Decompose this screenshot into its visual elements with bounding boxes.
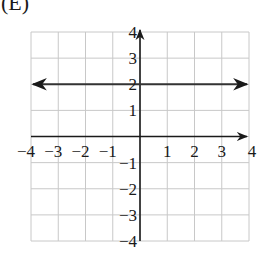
x-tick-label: −1	[99, 142, 117, 161]
panel-label: (E)	[1, 0, 29, 15]
x-tick-label: 1	[163, 142, 172, 161]
y-tick-label: 1	[129, 101, 138, 120]
coordinate-graph: (E) −4−3−2−11234 4321−1−2−3−4	[0, 0, 262, 256]
y-tick-label: 2	[129, 75, 138, 94]
x-tick-label: 3	[218, 142, 227, 161]
y-tick-label: −1	[119, 154, 137, 173]
y-tick-label: −3	[119, 206, 137, 225]
y-tick-label: −2	[119, 180, 137, 199]
axes	[31, 30, 247, 241]
y-tick-label: −4	[119, 232, 138, 251]
y-tick-label: 4	[129, 23, 138, 42]
x-tick-label: 2	[190, 142, 199, 161]
y-tick-label: 3	[129, 49, 138, 68]
x-tick-label: −4	[17, 142, 36, 161]
x-tick-label: −3	[44, 142, 62, 161]
x-tick-label: 4	[248, 142, 257, 161]
x-tick-label: −2	[71, 142, 89, 161]
